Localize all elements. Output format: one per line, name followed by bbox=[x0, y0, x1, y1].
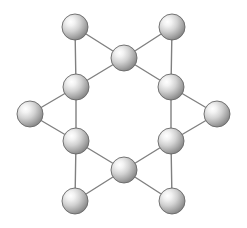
atom-sphere-ring-lower-right bbox=[158, 128, 184, 154]
atom-sphere-apex-bottom-left bbox=[62, 188, 88, 214]
atom-sphere-ring-upper-right bbox=[158, 74, 184, 100]
atom-sphere-apex-top-right bbox=[159, 14, 185, 40]
atom-sphere-ring-upper-left bbox=[63, 74, 89, 100]
atom-sphere-ring-top bbox=[111, 45, 137, 71]
atom-sphere-ring-lower-left bbox=[63, 128, 89, 154]
atom-sphere-apex-bottom-right bbox=[159, 188, 185, 214]
atom-sphere-apex-right bbox=[204, 101, 230, 127]
atom-sphere-apex-top-left bbox=[62, 14, 88, 40]
atom-sphere-apex-left bbox=[17, 101, 43, 127]
atoms-layer bbox=[17, 14, 230, 214]
molecule-figure bbox=[0, 0, 247, 228]
atom-sphere-ring-bottom bbox=[111, 157, 137, 183]
molecule-canvas bbox=[0, 0, 247, 228]
